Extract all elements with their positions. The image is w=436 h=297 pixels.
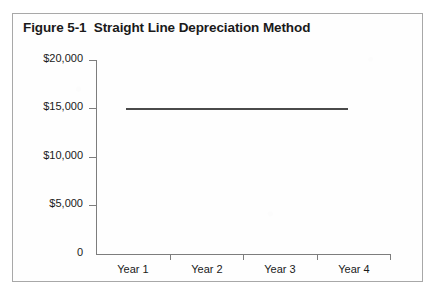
x-tick-label-year-3: Year 3 (243, 263, 317, 275)
y-tick-label-5000: $5,000 (19, 197, 83, 209)
x-tick-label-year-4: Year 4 (317, 263, 391, 275)
x-tick-mark-4 (390, 254, 391, 260)
x-tick-label-year-2: Year 2 (170, 263, 244, 275)
y-tick-mark-20000 (89, 60, 96, 61)
y-tick-label-10000: $10,000 (19, 149, 83, 161)
x-tick-mark-1 (170, 254, 171, 260)
x-tick-mark-2 (243, 254, 244, 260)
y-tick-label-0: 0 (19, 246, 83, 258)
depreciation-line-series (126, 108, 349, 110)
x-tick-mark-3 (317, 254, 318, 260)
x-tick-label-year-1: Year 1 (96, 263, 170, 275)
y-tick-mark-5000 (89, 205, 96, 206)
y-tick-mark-15000 (89, 108, 96, 109)
y-tick-label-15000: $15,000 (19, 100, 83, 112)
y-tick-mark-10000 (89, 157, 96, 158)
figure-panel: Figure 5-1 Straight Line Depreciation Me… (12, 13, 423, 282)
y-tick-label-20000: $20,000 (19, 52, 83, 64)
y-axis-line (96, 60, 97, 254)
chart-plot-area: $20,000 $15,000 $10,000 $5,000 0 Year 1 … (13, 14, 424, 283)
